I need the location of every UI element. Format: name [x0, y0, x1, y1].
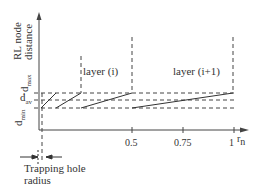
- x-axis-label: rn: [237, 133, 245, 147]
- y-axis: [37, 12, 42, 130]
- d-max-label: dmax: [18, 74, 33, 92]
- trapping-hole-label-line2: radius: [24, 174, 51, 186]
- layer-boundaries: [42, 37, 233, 160]
- level-lines: [34, 93, 234, 108]
- d-min-label: dmin: [12, 109, 27, 126]
- rl-node-distance-diagram: RL node distance dmax , dav dmin layer (…: [0, 0, 260, 187]
- tick-label-0.5: 0.5: [125, 137, 138, 148]
- d-av-label: dav: [20, 91, 33, 106]
- layer-i-label: layer (i): [83, 65, 118, 78]
- x-axis-arrow-icon: [240, 128, 249, 133]
- x-axis: [39, 127, 249, 133]
- trapping-hole-label-line1: Trapping hole: [24, 162, 86, 174]
- tick-label-1: 1: [229, 137, 234, 148]
- y-axis-label-line2: distance: [22, 24, 34, 60]
- y-axis-arrow-icon: [37, 12, 42, 20]
- layer-i1-label: layer (i+1): [173, 65, 220, 78]
- tick-label-0.75: 0.75: [174, 137, 192, 148]
